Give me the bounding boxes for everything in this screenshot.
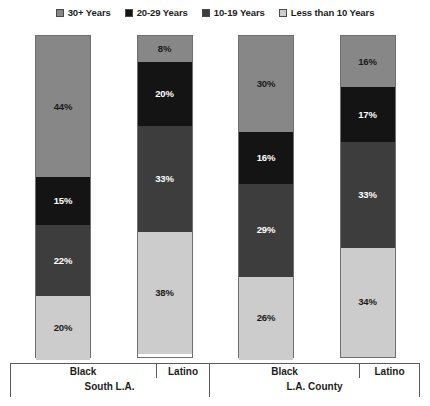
legend-item[interactable]: 10-19 Years: [202, 8, 265, 18]
bar-segment-value: 33%: [155, 174, 174, 184]
stacked-bar[interactable]: 16%17%33%34%: [340, 35, 396, 358]
legend-swatch-icon: [56, 9, 64, 17]
bar-segment-value: 20%: [54, 323, 73, 333]
axis-group-label-south-la: South L.A.: [10, 380, 209, 393]
axis-label-black-southla: Black: [10, 365, 156, 378]
bar-segment[interactable]: 33%: [138, 126, 192, 232]
bar-segment-value: 17%: [358, 110, 377, 120]
axis-label-latino-southla: Latino: [157, 365, 209, 378]
bar-segment-value: 30%: [257, 79, 276, 89]
bar-segment-value: 29%: [257, 225, 276, 235]
bar-segment-value: 22%: [54, 256, 73, 266]
legend-item[interactable]: Less than 10 Years: [279, 8, 375, 18]
legend-item-label: Less than 10 Years: [291, 8, 375, 18]
bar-segment[interactable]: 20%: [36, 296, 90, 360]
legend-swatch-icon: [279, 9, 287, 17]
stacked-bar[interactable]: 44%15%22%20%: [35, 35, 91, 358]
axis-right-end-tick: [419, 363, 420, 397]
bar-segment-value: 16%: [257, 153, 276, 163]
bar-segment[interactable]: 38%: [138, 232, 192, 354]
bar-segment-value: 26%: [257, 313, 276, 323]
bar-segment[interactable]: 17%: [341, 87, 395, 142]
bar-segment-value: 44%: [54, 102, 73, 112]
legend-item[interactable]: 20-29 Years: [125, 8, 188, 18]
bar-segment[interactable]: 15%: [36, 177, 90, 225]
bar-segment-value: 38%: [155, 288, 174, 298]
bar-segment-value: 20%: [155, 89, 174, 99]
bar-segment[interactable]: 16%: [239, 132, 293, 183]
bar-segment[interactable]: 29%: [239, 184, 293, 277]
bar-segment-value: 33%: [358, 190, 377, 200]
bar-segment[interactable]: 30%: [239, 36, 293, 132]
axis-label-black-county: Black: [210, 365, 359, 378]
bar-segment[interactable]: 26%: [239, 277, 293, 360]
bar-segment[interactable]: 22%: [36, 225, 90, 296]
legend-item[interactable]: 30+ Years: [56, 8, 111, 18]
category-axis: Black Latino Black Latino South L.A. L.A…: [10, 363, 420, 405]
bar-segment-value: 15%: [54, 196, 73, 206]
axis-group-label-la-county: L.A. County: [210, 380, 419, 393]
legend-item-label: 10-19 Years: [214, 8, 265, 18]
bar-segment[interactable]: 16%: [341, 36, 395, 87]
stacked-bar[interactable]: 8%20%33%38%: [137, 35, 193, 358]
bar-segment[interactable]: 8%: [138, 36, 192, 62]
legend-swatch-icon: [202, 9, 210, 17]
bar-segment[interactable]: 20%: [138, 62, 192, 126]
bar-segment-value: 34%: [358, 297, 377, 307]
stacked-bar-chart: 30+ Years20-29 Years10-19 YearsLess than…: [0, 0, 430, 406]
bar-segment[interactable]: 33%: [341, 142, 395, 248]
plot-area: 44%15%22%20%8%20%33%38%30%16%29%26%16%17…: [0, 35, 430, 358]
legend-item-label: 20-29 Years: [137, 8, 188, 18]
axis-label-latino-county: Latino: [360, 365, 419, 378]
stacked-bar[interactable]: 30%16%29%26%: [238, 35, 294, 358]
bar-segment[interactable]: 44%: [36, 36, 90, 177]
bar-segment-value: 8%: [158, 44, 172, 54]
chart-legend: 30+ Years20-29 Years10-19 YearsLess than…: [0, 6, 430, 20]
bar-segment[interactable]: 34%: [341, 248, 395, 357]
legend-item-label: 30+ Years: [68, 8, 111, 18]
bar-segment-value: 16%: [358, 57, 377, 67]
legend-swatch-icon: [125, 9, 133, 17]
